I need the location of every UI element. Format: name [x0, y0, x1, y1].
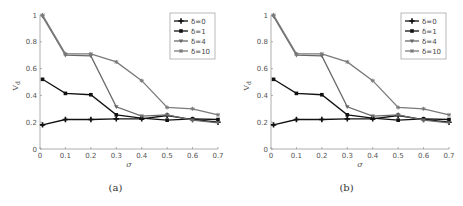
star-marker [179, 49, 183, 53]
panel-caption-a: (a) [0, 182, 231, 193]
point-marker [64, 118, 67, 121]
panel-caption-b: (b) [231, 182, 462, 193]
point-marker [41, 124, 44, 127]
y-tick-label: 1 [264, 12, 268, 20]
legend-label: δ=1 [191, 28, 206, 36]
legend-label: δ=0 [422, 18, 437, 26]
y-tick-label: 0 [33, 146, 37, 154]
star-marker [140, 79, 144, 83]
y-tick-label: 0.4 [257, 92, 269, 100]
x-tick-label: 0.6 [187, 152, 199, 160]
point-marker [321, 118, 324, 121]
line-chart-a: 00.20.40.60.8100.10.20.30.40.50.60.7σVdδ… [0, 0, 231, 180]
square-marker [64, 92, 68, 96]
star-marker [216, 113, 220, 117]
point-marker [411, 20, 414, 23]
point-marker [115, 118, 118, 121]
x-tick-label: 0.5 [393, 152, 404, 160]
square-marker [179, 29, 183, 33]
y-tick-label: 0.2 [257, 119, 268, 127]
x-tick-label: 0 [269, 152, 273, 160]
square-marker [114, 113, 118, 117]
legend: δ=0δ=1δ=4δ=10 [170, 13, 215, 59]
y-tick-label: 1 [33, 12, 37, 20]
star-marker [63, 52, 67, 56]
point-marker [180, 20, 183, 23]
star-marker [320, 52, 324, 56]
point-marker [272, 124, 275, 127]
x-axis-label: σ [357, 160, 363, 169]
x-tick-label: 0 [38, 152, 42, 160]
x-tick-label: 0.2 [85, 152, 96, 160]
y-tick-label: 0.8 [26, 38, 37, 46]
x-tick-label: 0.2 [316, 152, 327, 160]
square-marker [345, 113, 349, 117]
legend-label: δ=1 [422, 28, 437, 36]
x-tick-label: 0.5 [162, 152, 173, 160]
star-marker [41, 13, 45, 17]
chart-panel-a: 00.20.40.60.8100.10.20.30.40.50.60.7σVdδ… [0, 0, 231, 206]
square-marker [165, 118, 169, 122]
square-marker [89, 93, 93, 97]
square-marker [272, 78, 276, 82]
star-marker [272, 13, 276, 17]
star-marker [114, 60, 118, 64]
x-tick-label: 0.1 [291, 152, 302, 160]
line-chart-b: 00.20.40.60.8100.10.20.30.40.50.60.7σVdδ… [231, 0, 462, 180]
legend: δ=0δ=1δ=4δ=10 [401, 13, 446, 59]
y-tick-label: 0 [264, 146, 268, 154]
square-marker [295, 92, 299, 96]
star-marker [371, 79, 375, 83]
legend-label: δ=4 [191, 38, 206, 46]
x-tick-label: 0.7 [212, 152, 223, 160]
star-marker [89, 52, 93, 56]
y-tick-label: 0.2 [26, 119, 37, 127]
star-marker [410, 49, 414, 53]
x-tick-label: 0.3 [342, 152, 353, 160]
point-marker [346, 118, 349, 121]
x-axis-label: σ [126, 160, 132, 169]
series-line [43, 79, 218, 120]
star-marker [345, 60, 349, 64]
star-marker [165, 105, 169, 109]
square-marker [320, 93, 324, 97]
x-tick-label: 0.6 [418, 152, 430, 160]
series-line [274, 79, 449, 120]
legend-label: δ=10 [422, 48, 441, 56]
y-axis-label: Vd [242, 81, 252, 92]
y-tick-label: 0.4 [26, 92, 38, 100]
x-tick-label: 0.7 [443, 152, 454, 160]
x-tick-label: 0.4 [136, 152, 148, 160]
y-tick-label: 0.8 [257, 38, 268, 46]
star-marker [191, 107, 195, 111]
star-marker [294, 52, 298, 56]
legend-label: δ=10 [191, 48, 210, 56]
square-marker [396, 118, 400, 122]
x-tick-label: 0.4 [367, 152, 379, 160]
point-marker [295, 118, 298, 121]
x-tick-label: 0.3 [111, 152, 122, 160]
star-marker [422, 107, 426, 111]
square-marker [41, 78, 45, 82]
x-tick-label: 0.1 [60, 152, 71, 160]
square-marker [410, 29, 414, 33]
y-tick-label: 0.6 [257, 65, 269, 73]
legend-label: δ=4 [422, 38, 437, 46]
series-delta-1 [41, 78, 220, 122]
square-marker [216, 118, 220, 122]
square-marker [447, 118, 451, 122]
star-marker [447, 113, 451, 117]
star-marker [396, 105, 400, 109]
point-marker [90, 118, 93, 121]
chart-panel-b: 00.20.40.60.8100.10.20.30.40.50.60.7σVdδ… [231, 0, 462, 206]
legend-label: δ=0 [191, 18, 206, 26]
y-axis-label: Vd [11, 81, 21, 92]
series-delta-1 [272, 78, 451, 122]
y-tick-label: 0.6 [26, 65, 38, 73]
